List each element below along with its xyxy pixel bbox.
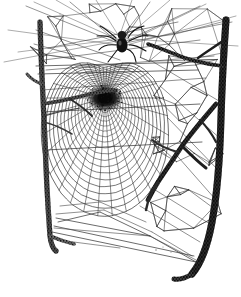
illustration-plate [0, 0, 241, 297]
orb-hub-stipple [117, 98, 118, 99]
orb-hub-stipple [89, 97, 90, 98]
orb-hub-stipple [91, 103, 93, 105]
orb-hub-stipple [104, 109, 106, 111]
orb-hub-stipple [119, 90, 121, 92]
orb-hub-stipple [99, 106, 100, 107]
orb-hub-stipple [107, 100, 109, 102]
orb-hub-stipple [92, 88, 93, 89]
orb-hub-stipple [107, 98, 108, 99]
orb-hub-stipple [116, 90, 118, 92]
orb-hub-stipple [115, 105, 116, 106]
orb-hub-stipple [101, 97, 102, 98]
orb-hub-stipple [118, 101, 119, 102]
orb-hub-stipple [110, 104, 111, 105]
orb-hub-stipple [109, 107, 110, 108]
orb-hub-stipple [97, 99, 99, 101]
orb-hub-stipple [97, 106, 98, 107]
orb-hub-stipple [109, 102, 110, 103]
orb-hub-stipple [118, 103, 119, 104]
spider-cephalothorax [118, 31, 126, 39]
orb-hub-stipple [107, 103, 108, 104]
orb-hub-stipple [102, 88, 104, 90]
orb-hub-stipple [100, 109, 101, 110]
spider-abdomen [116, 37, 127, 52]
orb-hub-stipple [106, 95, 107, 96]
orb-hub-stipple [104, 102, 105, 103]
orb-hub-stipple [101, 95, 102, 96]
orb-hub-stipple [117, 101, 118, 102]
orb-hub-stipple [101, 85, 103, 87]
orb-web-hub [86, 85, 124, 112]
orb-hub-stipple [113, 102, 114, 103]
orb-hub-stipple [119, 92, 121, 94]
orb-hub-stipple [115, 102, 116, 103]
orb-hub-stipple [121, 102, 122, 103]
spider-web-illustration [0, 0, 241, 297]
orb-hub-stipple [111, 93, 112, 94]
orb-hub-stipple [87, 99, 88, 100]
orb-hub-stipple [111, 96, 113, 98]
orb-hub-stipple [99, 107, 100, 108]
spider-abdomen-highlight [118, 40, 121, 45]
orb-hub-stipple [112, 101, 114, 103]
orb-hub-stipple [102, 104, 104, 106]
orb-hub-stipple [110, 101, 112, 103]
orb-hub-stipple [120, 94, 121, 95]
orb-hub-stipple [114, 93, 116, 95]
orb-hub-stipple [102, 107, 103, 108]
orb-hub-stipple [89, 102, 90, 103]
orb-hub-stipple [107, 94, 109, 96]
orb-hub-stipple [103, 96, 104, 97]
orb-hub-stipple [118, 95, 119, 96]
orb-hub-stipple [116, 88, 118, 90]
